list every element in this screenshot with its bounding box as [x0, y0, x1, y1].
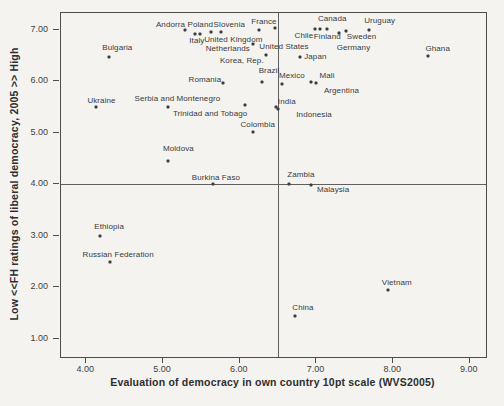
data-point	[386, 289, 389, 292]
data-point-label: Zambia	[287, 171, 314, 179]
y-axis-tick	[53, 29, 59, 30]
y-axis-tick	[53, 80, 59, 81]
data-point-label: Malaysia	[317, 186, 349, 194]
data-point	[167, 159, 170, 162]
data-point-label: Ethiopia	[94, 223, 124, 231]
data-point-label: Russian Federation	[83, 251, 154, 259]
data-point	[426, 54, 429, 57]
x-axis-tick	[239, 357, 240, 363]
x-axis-tick-label: 6.00	[230, 365, 248, 374]
x-axis-tick	[392, 357, 393, 363]
y-axis-tick-label: 3.00	[30, 230, 48, 239]
y-axis-tick-label: 5.00	[30, 127, 48, 136]
data-point-label: Italy	[189, 37, 204, 45]
data-point-label: Andorra	[156, 21, 185, 29]
y-axis-tick-label: 1.00	[30, 333, 48, 342]
data-point	[244, 104, 247, 107]
x-axis-tick-label: 4.00	[77, 365, 95, 374]
y-axis-title-text: Low <<FH ratings of liberal democracy, 2…	[8, 47, 20, 320]
data-point-label: Moldova	[163, 145, 194, 153]
y-axis-tick	[53, 183, 59, 184]
data-point	[108, 55, 111, 58]
data-point-label: Serbia and Montenegro	[135, 95, 221, 103]
data-point	[280, 83, 283, 86]
data-point	[287, 182, 290, 185]
x-axis-tick	[315, 357, 316, 363]
data-point-label: Mali	[320, 72, 335, 80]
data-point	[310, 81, 313, 84]
data-point	[251, 130, 254, 133]
y-axis-tick-label: 7.00	[30, 24, 48, 33]
data-point	[194, 32, 197, 35]
data-point	[277, 108, 280, 111]
data-point	[210, 31, 213, 34]
data-point-label: Slovenia	[214, 21, 246, 29]
data-point-label: Mexico	[279, 72, 305, 80]
data-point-label: Indonesia	[296, 111, 332, 119]
x-axis-tick	[469, 357, 470, 363]
data-point	[260, 81, 263, 84]
data-point	[211, 183, 214, 186]
reference-line-horizontal	[61, 184, 486, 185]
x-axis-tick-label: 7.00	[307, 365, 325, 374]
data-point	[299, 55, 302, 58]
data-point-label: Brazil	[259, 67, 280, 75]
x-axis-title: Evaluation of democracy in own country 1…	[60, 376, 485, 388]
x-axis-tick-label: 8.00	[383, 365, 401, 374]
x-axis-tick-label: 5.00	[153, 365, 171, 374]
data-point-label: Romania	[189, 76, 222, 84]
data-point	[109, 260, 112, 263]
data-point-label: Vietnam	[382, 279, 412, 287]
data-point-label: Trinidad and Tobago	[173, 110, 247, 118]
data-point	[251, 42, 254, 45]
data-point	[257, 28, 260, 31]
data-point-label: Burkina Faso	[192, 174, 240, 182]
data-point-label: Canada	[318, 15, 347, 23]
data-point	[167, 106, 170, 109]
data-point	[293, 314, 296, 317]
data-point	[310, 184, 313, 187]
data-point	[367, 28, 370, 31]
data-point-label: Netherlands	[206, 45, 250, 53]
data-point-label: Chile	[295, 32, 314, 40]
data-point	[221, 82, 224, 85]
y-axis-tick-label: 4.00	[30, 179, 48, 188]
data-point-label: Ukraine	[87, 97, 115, 105]
y-axis-tick	[53, 235, 59, 236]
x-axis-tick-label: 9.00	[460, 365, 478, 374]
data-point-label: Sweden	[347, 33, 377, 41]
data-point	[313, 27, 316, 30]
y-axis-tick-label: 6.00	[30, 76, 48, 85]
data-point	[338, 31, 341, 34]
y-axis-tick-label: 2.00	[30, 282, 48, 291]
data-point	[315, 82, 318, 85]
plot-area: UkraineBulgariaEthiopiaRussian Federatio…	[60, 12, 487, 358]
data-point	[220, 31, 223, 34]
data-point	[326, 27, 329, 30]
data-point-label: Colombia	[240, 121, 275, 129]
data-point-label: Japan	[304, 53, 326, 61]
y-axis-tick	[53, 286, 59, 287]
data-point-label: Argentina	[324, 87, 359, 95]
data-point-label: France	[251, 18, 277, 26]
data-point	[274, 27, 277, 30]
data-point-label: United States	[259, 43, 308, 51]
x-axis-tick	[85, 357, 86, 363]
data-point-label: India	[278, 98, 296, 106]
data-point	[94, 106, 97, 109]
scatter-figure: Low <<FH ratings of liberal democracy, 2…	[0, 0, 504, 406]
data-point-label: Finland	[314, 33, 341, 41]
data-point-label: Ghana	[425, 45, 450, 53]
y-axis-tick	[53, 132, 59, 133]
data-point-label: China	[292, 304, 313, 312]
data-point	[319, 27, 322, 30]
data-point-label: Germany	[337, 44, 371, 52]
data-point-label: Poland	[187, 21, 213, 29]
data-point-label: Uruguay	[364, 17, 395, 25]
x-axis-tick	[162, 357, 163, 363]
data-point-label: Bulgaria	[102, 44, 132, 52]
data-point	[264, 54, 267, 57]
data-point-label: Korea, Rep.	[220, 57, 264, 65]
y-axis-tick	[53, 338, 59, 339]
data-point	[99, 234, 102, 237]
